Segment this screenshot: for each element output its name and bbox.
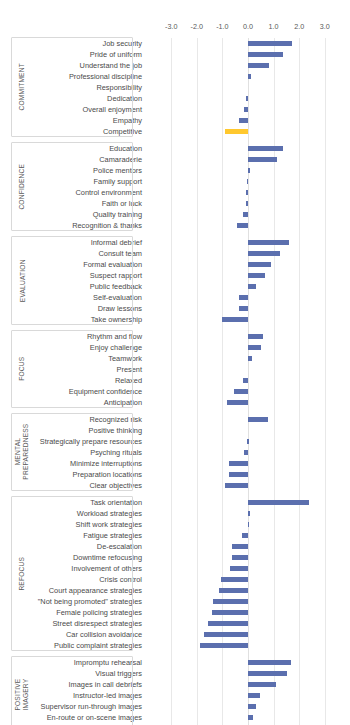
group-label: FOCUS <box>12 331 32 407</box>
bar <box>248 704 256 709</box>
group-label-text: MENTALPREPAREDNESS <box>14 424 29 480</box>
bar <box>248 500 309 505</box>
x-axis-tick-labels: -3.0-2.0-1.00.01.02.03.0 <box>0 22 350 36</box>
bar <box>229 461 248 466</box>
group-label-text: CONFIDENCE <box>18 164 26 210</box>
bar <box>248 273 265 278</box>
bar <box>200 643 248 648</box>
group-label-text: POSITIVEIMAGERY <box>14 679 29 711</box>
bar <box>248 146 283 151</box>
group-label-text: FOCUS <box>18 357 26 381</box>
bar <box>248 240 289 245</box>
bar-chart: -3.0-2.0-1.00.01.02.03.0 Job securityPri… <box>0 0 350 725</box>
group-bracket: EVALUATION <box>11 236 133 325</box>
group-label-text: COMMITMENT <box>18 63 26 110</box>
x-axis-tick-4: 1.0 <box>269 22 279 31</box>
bar <box>248 671 287 676</box>
bar <box>239 295 248 300</box>
bar <box>248 63 269 68</box>
bar <box>248 693 260 698</box>
group-label: EVALUATION <box>12 237 32 324</box>
bar <box>248 284 256 289</box>
bar <box>213 599 248 604</box>
bar <box>246 96 248 101</box>
bar <box>212 610 248 615</box>
bar <box>244 107 248 112</box>
x-axis-tick-2: -1.0 <box>216 22 228 31</box>
bar <box>222 317 248 322</box>
group-label: COMMITMENT <box>12 38 32 136</box>
bar <box>230 566 248 571</box>
bar <box>232 544 248 549</box>
bar <box>243 378 248 383</box>
bar <box>248 168 250 173</box>
group-bracket: COMMITMENT <box>11 37 133 137</box>
bar <box>243 212 248 217</box>
bar <box>246 190 248 195</box>
group-label-text: REFOCUS <box>18 557 26 591</box>
x-axis-tick-5: 2.0 <box>294 22 304 31</box>
bar <box>221 577 248 582</box>
bar <box>248 334 263 339</box>
bar <box>248 345 261 350</box>
bar <box>227 400 248 405</box>
group-bracket: POSITIVEIMAGERY <box>11 656 133 725</box>
bar <box>208 621 248 626</box>
x-axis-tick-6: 3.0 <box>320 22 330 31</box>
bar <box>244 450 248 455</box>
bar <box>248 74 251 79</box>
group-label: REFOCUS <box>12 497 32 650</box>
bar <box>248 522 249 527</box>
bar <box>225 483 248 488</box>
bar <box>248 682 276 687</box>
bar <box>239 306 248 311</box>
bar <box>204 632 248 637</box>
group-bracket: CONFIDENCE <box>11 142 133 231</box>
bar <box>237 223 248 228</box>
group-bracket: REFOCUS <box>11 496 133 651</box>
group-bracket: MENTALPREPAREDNESS <box>11 413 133 491</box>
bar <box>246 201 248 206</box>
bar <box>225 129 248 134</box>
bar <box>248 251 280 256</box>
bar <box>219 588 248 593</box>
group-label: MENTALPREPAREDNESS <box>12 414 32 490</box>
bar <box>248 52 283 57</box>
bar <box>247 179 248 184</box>
group-label: POSITIVEIMAGERY <box>12 657 32 725</box>
x-axis-tick-0: -3.0 <box>165 22 177 31</box>
bar <box>248 356 252 361</box>
bar <box>248 157 277 162</box>
bar <box>247 439 248 444</box>
group-label-text: EVALUATION <box>18 259 26 302</box>
bar <box>248 41 292 46</box>
bar <box>248 715 253 720</box>
group-bracket: FOCUS <box>11 330 133 408</box>
bar <box>248 417 268 422</box>
group-label: CONFIDENCE <box>12 143 32 230</box>
bar <box>242 533 248 538</box>
x-axis-tick-1: -2.0 <box>191 22 203 31</box>
x-axis-tick-3: 0.0 <box>243 22 253 31</box>
bar <box>239 118 248 123</box>
bar <box>234 389 248 394</box>
bar <box>229 472 248 477</box>
bar <box>248 660 291 665</box>
bar <box>248 262 271 267</box>
bar <box>248 511 250 516</box>
bar <box>232 555 248 560</box>
